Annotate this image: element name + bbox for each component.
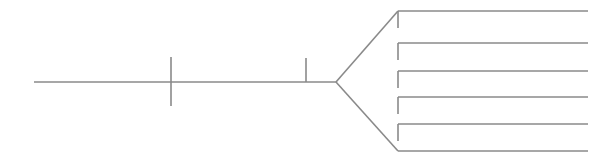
diagram-canvas (0, 0, 615, 159)
wedge-lower-diagonal (336, 82, 398, 151)
branch-lines-group (398, 11, 588, 151)
fishbone-diagram (0, 0, 615, 159)
wedge-group (336, 11, 398, 151)
wedge-upper-diagonal (336, 11, 398, 82)
